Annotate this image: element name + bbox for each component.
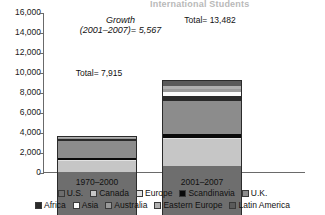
total-label-left: Total= 7,915 (64, 68, 134, 78)
legend-swatch-icon (229, 202, 236, 209)
y-axis-tick-label: 14,000 (1, 28, 41, 37)
legend-swatch-icon (90, 190, 97, 197)
legend-item[interactable]: Europe (136, 188, 172, 198)
stacked-bar-chart: International Students 16,00014,00012,00… (0, 0, 325, 215)
bar-segment-uk[interactable] (58, 141, 136, 158)
bar-segment-uk[interactable] (163, 101, 241, 134)
legend-label: Canada (99, 188, 129, 198)
total-label-right: Total= 13,482 (170, 15, 250, 25)
legend-item[interactable]: Scandinavia (179, 188, 234, 198)
legend-row-1: U.S.CanadaEuropeScandinaviaU.K. (58, 187, 268, 199)
legend-label: Eastern Europe (163, 200, 222, 210)
legend-label: Scandinavia (188, 188, 234, 198)
legend-swatch-icon (105, 202, 112, 209)
y-axis-tick (39, 53, 44, 54)
y-axis-tick-label: 0 (1, 168, 41, 177)
x-category-2001-2007: 2001–2007 (162, 177, 242, 187)
y-axis-tick (39, 93, 44, 94)
growth-annotation: Growth (2001–2007)= 5,567 (58, 15, 183, 35)
legend-swatch-icon (58, 190, 65, 197)
y-axis-tick (39, 13, 44, 14)
x-category-1970-2000: 1970–2000 (57, 177, 137, 187)
legend-swatch-icon (136, 190, 143, 197)
legend-swatch-icon (242, 190, 249, 197)
legend-item[interactable]: Latin America (229, 200, 290, 210)
legend-label: Africa (44, 200, 66, 210)
y-axis-labels: 16,00014,00012,00010,0008,0006,0004,0002… (0, 0, 41, 215)
legend-swatch-icon (73, 202, 80, 209)
y-axis-tick (39, 73, 44, 74)
legend-row-2: AfricaAsiaAustraliaEastern EuropeLatin A… (35, 199, 290, 211)
y-axis-tick (39, 113, 44, 114)
legend-item[interactable]: Asia (73, 200, 99, 210)
legend-item[interactable]: Eastern Europe (154, 200, 222, 210)
y-axis-tick (39, 133, 44, 134)
legend-swatch-icon (154, 202, 161, 209)
legend-item[interactable]: Australia (105, 200, 147, 210)
legend-swatch-icon (179, 190, 186, 197)
legend-label: Australia (114, 200, 147, 210)
legend-label: Asia (82, 200, 99, 210)
y-axis-tick-label: 8,000 (1, 88, 41, 97)
legend-label: U.K. (251, 188, 268, 198)
legend-item[interactable]: Africa (35, 200, 66, 210)
y-axis-tick-label: 10,000 (1, 68, 41, 77)
chart-title: International Students (150, 0, 320, 9)
legend-item[interactable]: Canada (90, 188, 129, 198)
growth-annotation-line2: (2001–2007)= 5,567 (58, 25, 183, 35)
legend-label: Europe (145, 188, 172, 198)
y-axis-tick (39, 153, 44, 154)
legend-item[interactable]: U.S. (58, 188, 84, 198)
legend-item[interactable]: U.K. (242, 188, 268, 198)
legend-swatch-icon (35, 202, 42, 209)
bar-segment-canada[interactable] (58, 161, 136, 172)
y-axis-tick-label: 12,000 (1, 48, 41, 57)
y-axis-tick (39, 33, 44, 34)
y-axis-tick-label: 6,000 (1, 108, 41, 117)
growth-annotation-line1: Growth (58, 15, 183, 25)
y-axis-tick-label: 2,000 (1, 148, 41, 157)
y-axis-tick (39, 173, 44, 174)
legend-label: U.S. (67, 188, 84, 198)
y-axis-tick-label: 16,000 (1, 8, 41, 17)
bar-segment-canada[interactable] (163, 139, 241, 166)
chart-legend: U.S.CanadaEuropeScandinaviaU.K. AfricaAs… (0, 187, 325, 211)
y-axis-tick-label: 4,000 (1, 128, 41, 137)
legend-label: Latin America (238, 200, 290, 210)
